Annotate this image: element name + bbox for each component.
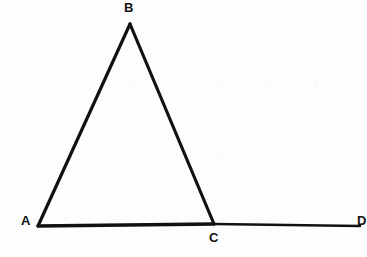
segment-AC (38, 224, 214, 226)
segment-group (38, 24, 360, 226)
vertex-label-d: D (357, 214, 366, 227)
vertex-label-a: A (21, 214, 30, 227)
geometry-figure: B A C D (0, 0, 367, 257)
segment-AB (38, 24, 130, 226)
triangle-diagram-svg (0, 0, 367, 257)
segment-BC (130, 24, 214, 224)
vertex-label-c: C (209, 231, 218, 244)
vertex-label-b: B (124, 1, 133, 14)
segment-CD (214, 224, 360, 226)
